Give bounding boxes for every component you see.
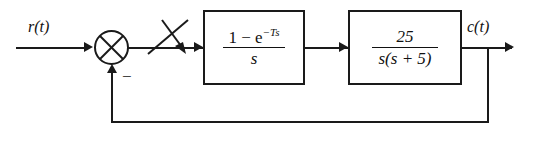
summing-junction: [94, 30, 129, 65]
negative-feedback-sign: −: [122, 68, 132, 85]
plant-block: 25 s(s + 5): [348, 10, 462, 85]
block-diagram-figure: r(t) − 1 − e−Ts s 25: [0, 0, 533, 159]
feedback-tap-line: [487, 47, 489, 122]
feedback-arrowhead: [107, 64, 117, 73]
input-signal-label: r(t): [28, 18, 49, 36]
zero-order-hold-transfer-function: 1 − e−Ts s: [223, 27, 286, 68]
zoh-numerator-base: 1 − e: [229, 27, 263, 46]
output-signal-label: c(t): [467, 18, 489, 36]
plant-denominator: s(s + 5): [372, 48, 437, 68]
zero-order-hold-denominator: s: [245, 48, 264, 68]
zero-order-hold-block: 1 − e−Ts s: [203, 10, 305, 85]
plant-numerator: 25: [391, 28, 420, 47]
feedback-line: [111, 121, 489, 123]
input-arrowhead: [84, 42, 93, 52]
output-arrowhead: [505, 42, 514, 52]
zoh-numerator-exponent: −Ts: [263, 26, 280, 38]
input-line: [16, 47, 88, 49]
zero-order-hold-input-arrowhead: [194, 42, 203, 52]
sampler-switch: [144, 14, 196, 60]
feedback-return-line: [111, 72, 113, 122]
plant-transfer-function: 25 s(s + 5): [372, 28, 437, 68]
plant-input-arrowhead: [339, 42, 348, 52]
zero-order-hold-numerator: 1 − e−Ts: [223, 27, 286, 48]
